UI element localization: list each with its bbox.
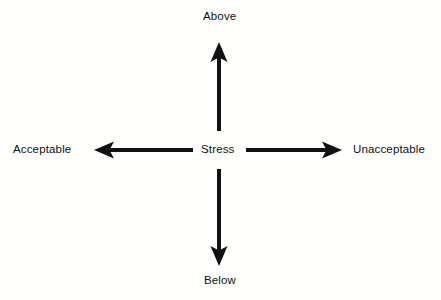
down-arrow	[211, 169, 228, 266]
diagram-canvas: Above Acceptable Stress Unacceptable Bel…	[0, 0, 441, 300]
down-arrow-shaft	[217, 169, 221, 251]
right-arrow	[246, 142, 342, 159]
up-arrow-shaft	[217, 56, 221, 131]
left-arrow	[94, 142, 193, 159]
label-acceptable: Acceptable	[13, 143, 71, 156]
left-arrow-shaft	[109, 148, 193, 152]
label-below: Below	[204, 274, 236, 287]
right-arrow-shaft	[246, 148, 329, 152]
label-unacceptable: Unacceptable	[353, 143, 425, 156]
label-center-stress: Stress	[201, 143, 235, 156]
label-above: Above	[203, 10, 236, 23]
up-arrow	[211, 42, 228, 131]
